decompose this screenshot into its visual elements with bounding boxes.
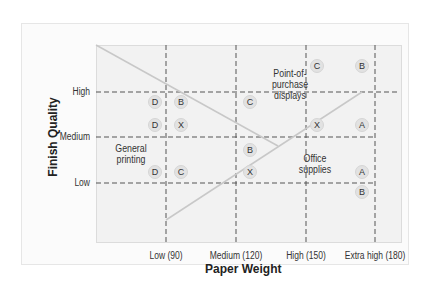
marker-a: A [355,165,369,179]
marker-x: X [243,165,257,179]
marker-b: B [174,95,188,109]
region-line: Point-of- [264,68,317,79]
x-tick-low: Low (90) [132,250,200,261]
marker-x: X [174,118,188,132]
region-line: printing [109,154,153,165]
x-axis-title: Paper Weight [205,262,281,276]
region-line: purchase [264,79,317,90]
region-label-point-of-purchase: Point-of- purchase displays [264,68,317,101]
marker-d: D [148,95,162,109]
marker-c: C [174,165,188,179]
x-tick-medium: Medium (120) [202,250,270,261]
y-axis-title: Finish Quality [46,87,60,187]
region-line: displays [264,90,317,101]
marker-c: C [310,59,324,73]
x-tick-high: High (150) [272,250,340,261]
marker-b: B [243,143,257,157]
region-line: supplies [289,164,342,175]
marker-d: D [148,165,162,179]
region-label-general-printing: General printing [109,143,153,165]
region-line: General [109,143,153,154]
marker-c: C [243,95,257,109]
marker-a: A [355,118,369,132]
marker-x: X [310,118,324,132]
region-line: Office [289,153,342,164]
region-label-office-supplies: Office supplies [289,153,342,175]
marker-b: B [355,185,369,199]
marker-d: D [148,118,162,132]
x-tick-extra-high: Extra high (180) [341,250,409,261]
marker-b: B [355,59,369,73]
